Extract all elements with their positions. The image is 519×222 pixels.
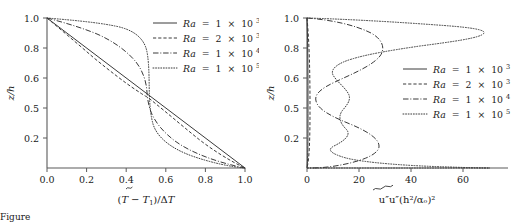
- legend-exponent: 3: [506, 63, 510, 71]
- svg-text:Ra = 1: Ra = 1 × 10 3: [432, 63, 510, 75]
- legend-exponent: 3: [256, 32, 259, 40]
- legend-equals: =: [202, 48, 210, 59]
- x-tick-label: 40: [405, 174, 417, 185]
- figure-caption: Figure: [0, 212, 519, 222]
- y-tick-label: 0.6: [284, 73, 299, 84]
- x-tick-label: 20: [353, 174, 365, 185]
- y-axis-label: z/h: [5, 85, 16, 101]
- y-tick-label: 0.2: [24, 133, 39, 144]
- legend-item-ra-2e3[interactable]: Ra = 2 × 10 3: [403, 78, 510, 90]
- velocity-variance-plot-svg: 0 20 40 60 1.0 0.8 0.6 0.5 0.2 z/h: [260, 0, 519, 222]
- legend-base: 10: [241, 48, 253, 59]
- legend-base: 10: [241, 63, 253, 74]
- curve-ra-1e5: [307, 18, 490, 168]
- legend-mantissa: 1: [466, 64, 472, 75]
- legend-equals: =: [452, 79, 460, 90]
- x-ticks-right: [307, 168, 463, 172]
- legend-exponent: 4: [506, 93, 510, 101]
- legend-label-ra: Ra: [432, 94, 446, 105]
- legend-label-ra: Ra: [432, 64, 446, 75]
- legend-left: Ra = 1 × 10 3 Ra = 2 × 10: [153, 17, 259, 74]
- curves-right: [307, 18, 490, 168]
- legend-label-ra: Ra: [432, 79, 446, 90]
- svg-text:Ra = 1: Ra = 1 × 10 4: [432, 93, 510, 105]
- y-tick-label: 0.5: [24, 103, 39, 114]
- x-tick-label: 0.6: [158, 174, 173, 185]
- legend-exponent: 5: [506, 108, 510, 116]
- x-tick-label: 0: [304, 174, 310, 185]
- legend-exponent: 5: [256, 62, 259, 70]
- y-axis-label: z/h: [265, 85, 276, 101]
- y-tick-labels-right: 1.0 0.8 0.6 0.5 0.2: [284, 13, 299, 144]
- svg-text:Ra = 1: Ra = 1 × 10 4: [182, 47, 259, 59]
- legend-item-ra-1e4[interactable]: Ra = 1 × 10 4: [153, 47, 259, 59]
- legend-item-ra-1e3[interactable]: Ra = 1 × 10 3: [153, 17, 259, 29]
- svg-text:Ra = 2: Ra = 2 × 10 3: [432, 78, 510, 90]
- legend-exponent: 4: [256, 47, 259, 55]
- legend-times: ×: [477, 79, 485, 90]
- xlabel-t-tilde: T: [121, 194, 129, 205]
- legend-exponent: 3: [256, 17, 259, 25]
- legend-times: ×: [227, 33, 235, 44]
- x-tick-label: 0.2: [79, 174, 94, 185]
- y-tick-label: 0.6: [24, 73, 39, 84]
- x-tick-label: 0.4: [119, 174, 134, 185]
- legend-mantissa: 1: [216, 63, 222, 74]
- x-tick-label: 1.0: [237, 174, 252, 185]
- panel-velocity-variance-profile: 0 20 40 60 1.0 0.8 0.6 0.5 0.2 z/h: [260, 0, 519, 222]
- legend-equals: =: [202, 18, 210, 29]
- legend-label-ra: Ra: [182, 63, 196, 74]
- legend-right: Ra = 1 × 10 3 Ra = 2 × 10: [403, 63, 510, 120]
- xlabel-t-end: T: [168, 194, 176, 205]
- legend-label-ra: Ra: [182, 33, 196, 44]
- legend-mantissa: 2: [216, 33, 222, 44]
- y-tick-labels-left: 1.0 0.8 0.6 0.5 0.2: [24, 13, 39, 144]
- svg-text:Ra = 2: Ra = 2 × 10 3: [182, 32, 259, 44]
- legend-times: ×: [477, 64, 485, 75]
- legend-times: ×: [227, 18, 235, 29]
- legend-base: 10: [241, 18, 253, 29]
- legend-item-ra-2e3[interactable]: Ra = 2 × 10 3: [153, 32, 259, 44]
- temperature-plot-svg: 0.0 0.2 0.4 0.6 0.8 1.0 1.0 0.8 0.6 0.5: [0, 0, 259, 222]
- figure-container: 0.0 0.2 0.4 0.6 0.8 1.0 1.0 0.8 0.6 0.5: [0, 0, 519, 222]
- y-tick-label: 1.0: [284, 13, 299, 24]
- legend-mantissa: 1: [466, 94, 472, 105]
- tilde-accent-icon: [373, 185, 393, 190]
- legend-times: ×: [227, 48, 235, 59]
- legend-label-ra: Ra: [182, 48, 196, 59]
- legend-equals: =: [452, 64, 460, 75]
- x-axis-label-left-group: (T−T1)/ΔT: [117, 187, 175, 207]
- legend-label-ra: Ra: [182, 18, 196, 29]
- x-tick-label: 0.8: [198, 174, 213, 185]
- legend-item-ra-1e4[interactable]: Ra = 1 × 10 4: [403, 93, 510, 105]
- legend-base: 10: [491, 94, 503, 105]
- y-tick-label: 0.5: [284, 103, 299, 114]
- svg-text:Ra = 1: Ra = 1 × 10 3: [182, 17, 259, 29]
- legend-item-ra-1e5[interactable]: Ra = 1 × 10 5: [403, 108, 510, 120]
- y-ticks-right: [303, 18, 307, 138]
- curve-ra-1e4: [307, 18, 383, 168]
- x-tick-labels-right: 0 20 40 60: [304, 174, 469, 185]
- x-tick-label: 0.0: [39, 174, 54, 185]
- x-tick-labels-left: 0.0 0.2 0.4 0.6 0.8 1.0: [39, 174, 252, 185]
- legend-mantissa: 1: [466, 109, 472, 120]
- legend-item-ra-1e3[interactable]: Ra = 1 × 10 3: [403, 63, 510, 75]
- y-tick-label: 1.0: [24, 13, 39, 24]
- legend-mantissa: 1: [216, 48, 222, 59]
- y-tick-label: 0.2: [284, 133, 299, 144]
- legend-equals: =: [202, 33, 210, 44]
- legend-base: 10: [491, 64, 503, 75]
- legend-base: 10: [491, 109, 503, 120]
- legend-mantissa: 2: [466, 79, 472, 90]
- legend-mantissa: 1: [216, 18, 222, 29]
- y-tick-label: 0.8: [284, 43, 299, 54]
- x-ticks-left: [47, 168, 245, 172]
- panel-temperature-profile: 0.0 0.2 0.4 0.6 0.8 1.0 1.0 0.8 0.6 0.5: [0, 0, 259, 222]
- xlabel-minus: −: [131, 194, 139, 205]
- legend-exponent: 3: [506, 78, 510, 86]
- svg-text:(T−T1)/ΔT: (T−T1)/ΔT: [117, 194, 175, 207]
- legend-equals: =: [452, 109, 460, 120]
- xlabel-delta: Δ: [161, 194, 168, 205]
- legend-base: 10: [491, 79, 503, 90]
- legend-item-ra-1e5[interactable]: Ra = 1 × 10 5: [153, 62, 259, 74]
